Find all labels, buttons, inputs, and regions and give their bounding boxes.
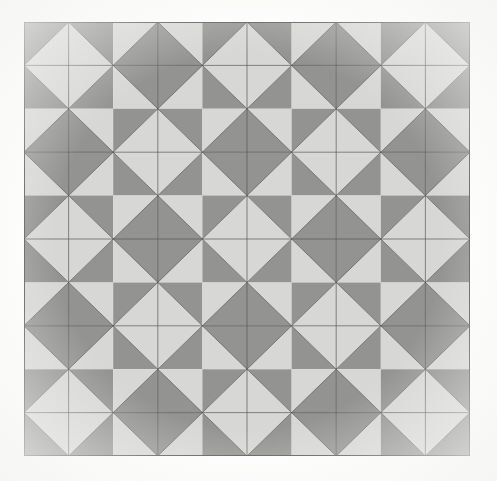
tile-outlines	[24, 22, 470, 456]
figure-canvas	[0, 0, 497, 481]
pattern-svg	[24, 22, 470, 456]
diamond-tessellation-figure	[24, 22, 470, 456]
